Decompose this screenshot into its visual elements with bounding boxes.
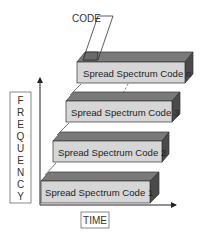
svg-text:N: N (17, 167, 24, 178)
svg-text:R: R (17, 107, 24, 118)
frequency-label: F R E Q U E N C Y (17, 95, 25, 202)
svg-text:U: U (17, 143, 24, 154)
code-box-1: Spread Spectrum Code 1 (41, 172, 159, 203)
box-label: Spread Spectrum Code 1 (45, 187, 153, 198)
box-label: Spread Spectrum Code n (83, 68, 191, 79)
time-label: TIME (83, 215, 107, 226)
svg-text:Q: Q (17, 131, 25, 142)
svg-text:F: F (17, 95, 23, 106)
box-label: Spread Spectrum Code 2 (58, 147, 166, 158)
spread-spectrum-diagram: CODE Spread Spectrum Code n Spread Spect… (0, 0, 202, 236)
svg-text:Y: Y (17, 191, 24, 202)
code-box-3: Spread Spectrum Code 3 (66, 92, 180, 122)
svg-text:E: E (17, 119, 24, 130)
svg-text:C: C (17, 179, 24, 190)
box-label: Spread Spectrum Code 3 (71, 107, 179, 118)
code-box-2: Spread Spectrum Code 2 (53, 132, 169, 162)
box-top-face (41, 172, 159, 181)
svg-text:E: E (17, 155, 24, 166)
box-top-face (66, 92, 180, 101)
box-top-face (53, 132, 169, 141)
